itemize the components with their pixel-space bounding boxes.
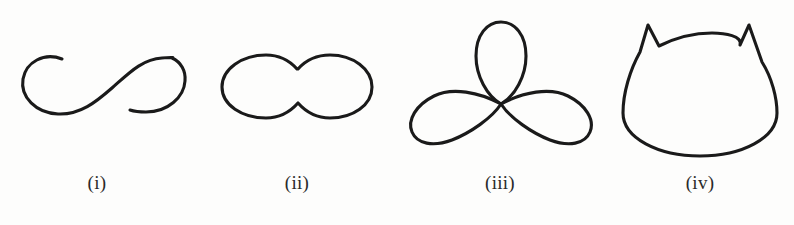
trefoil-petal-right: [501, 91, 591, 143]
figure-caption-ii: (ii): [237, 172, 357, 194]
figure-caption-iii: (iii): [440, 172, 560, 194]
open-s-curve: [23, 57, 185, 114]
trefoil-petal-left: [411, 91, 501, 143]
figure-plate: (i) (ii) (iii) (iv): [0, 0, 794, 225]
cat-head-curve: [623, 25, 777, 156]
figure-caption-i: (i): [37, 172, 157, 194]
trefoil-petal-top: [476, 22, 526, 104]
peanut-curve: [222, 55, 372, 118]
figure-caption-iv: (iv): [640, 172, 760, 194]
